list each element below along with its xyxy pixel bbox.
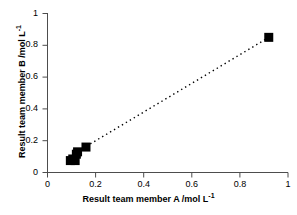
y-axis-title-exponent: -1: [15, 25, 22, 31]
scatter-chart: 00.20.40.60.81 00.20.40.60.81 Result tea…: [0, 0, 297, 215]
x-tick-label: 0.2: [81, 180, 111, 189]
y-axis-title-text: Result team member B /mol L: [17, 31, 27, 158]
trendline: [82, 38, 267, 149]
y-axis-title: Result team member B /mol L-1: [18, 2, 27, 182]
x-axis-ticks: [48, 173, 289, 178]
trendline-segment: [82, 38, 267, 149]
data-point-marker: [81, 143, 90, 152]
data-point-marker: [264, 33, 273, 42]
x-tick-label: 0.6: [177, 180, 207, 189]
data-point-marker: [73, 147, 82, 156]
x-tick-label: 0.4: [129, 180, 159, 189]
x-axis-title: Result team member A /mol L-1: [0, 195, 297, 204]
data-markers: [66, 33, 273, 165]
x-axis-title-exponent: -1: [208, 192, 214, 199]
x-axis-title-text: Result team member A /mol L: [82, 194, 208, 204]
y-axis-ticks: [43, 14, 48, 173]
x-tick-label: 0: [33, 180, 63, 189]
x-tick-label: 0.8: [225, 180, 255, 189]
x-tick-label: 1: [273, 180, 297, 189]
